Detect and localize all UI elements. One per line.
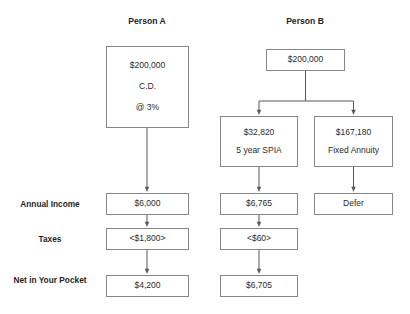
node-person-a-net-value: $4,200: [135, 281, 161, 291]
node-person-a-principal-amount: $200,000: [130, 61, 165, 71]
node-person-a-principal-type: C.D.: [139, 82, 156, 92]
node-person-b-fixed-annuity-amount: $167,180: [336, 128, 371, 138]
node-person-a-net: $4,200: [106, 275, 189, 297]
node-person-a-taxes: <$1,800>: [106, 228, 189, 250]
node-person-b-net-value: $6,705: [246, 281, 272, 291]
node-person-b-principal-amount: $200,000: [288, 55, 323, 65]
row-label-taxes: Taxes: [10, 233, 90, 245]
row-label-annual-income: Annual Income: [10, 198, 90, 210]
node-person-b-fixed-annuity: $167,180 Fixed Annuity: [314, 116, 393, 167]
node-person-b-defer: Defer: [314, 193, 393, 215]
row-label-annual-income-line1: Annual Income: [20, 199, 79, 209]
node-person-a-principal: $200,000 C.D. @ 3%: [106, 46, 189, 128]
row-label-net-line2: Pocket: [59, 275, 86, 285]
node-person-b-fixed-annuity-type: Fixed Annuity: [328, 146, 379, 156]
node-person-a-taxes-value: <$1,800>: [130, 234, 166, 244]
row-label-net-in-your-pocket: Net in Your Pocket: [10, 274, 90, 286]
node-person-a-principal-rate: @ 3%: [136, 103, 159, 113]
node-person-b-defer-value: Defer: [343, 199, 364, 209]
node-person-b-taxes: <$60>: [220, 228, 298, 250]
node-person-b-taxes-value: <$60>: [247, 234, 271, 244]
node-person-b-spia-type: 5 year SPIA: [236, 146, 281, 156]
column-title-person-b: Person B: [265, 16, 345, 26]
row-label-taxes-line1: Taxes: [39, 234, 62, 244]
node-person-a-annual-income-value: $6,000: [135, 199, 161, 209]
node-person-b-spia: $32,820 5 year SPIA: [220, 116, 298, 167]
financial-comparison-diagram: Person A Person B Annual Income Taxes Ne…: [0, 0, 410, 314]
node-person-b-annual-income-value: $6,765: [246, 199, 272, 209]
node-person-b-net: $6,705: [220, 275, 298, 297]
node-person-b-principal: $200,000: [266, 49, 345, 71]
column-title-person-a: Person A: [107, 16, 187, 26]
row-label-net-line1: Net in Your: [13, 275, 57, 285]
node-person-a-annual-income: $6,000: [106, 193, 189, 215]
node-person-b-annual-income: $6,765: [220, 193, 298, 215]
node-person-b-spia-amount: $32,820: [244, 128, 275, 138]
